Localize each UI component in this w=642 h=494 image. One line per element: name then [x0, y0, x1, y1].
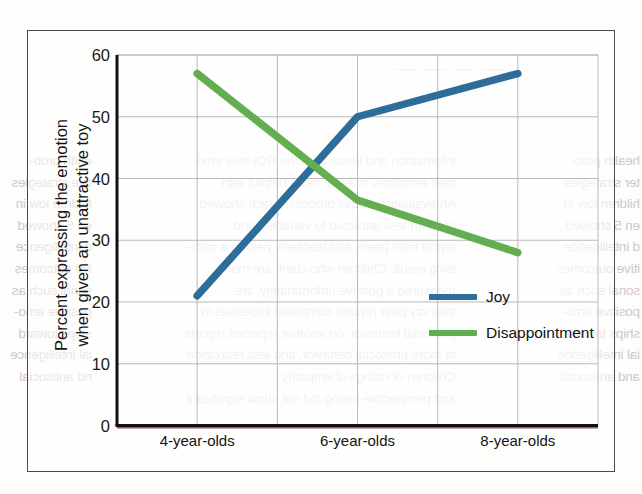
line-chart: Percent expressing the emotion when give…	[0, 0, 642, 494]
x-axis-tick-label: 6-year-olds	[320, 432, 395, 449]
legend-label-disappointment: Disappointment	[486, 324, 594, 342]
legend-item-joy[interactable]: Joy	[429, 288, 510, 306]
legend-item-disappointment[interactable]: Disappointment	[429, 324, 594, 342]
legend-label-joy: Joy	[486, 288, 510, 306]
legend-swatch-joy	[429, 294, 477, 300]
plot-area	[0, 0, 642, 494]
x-axis-tick-label: 8-year-olds	[480, 432, 555, 449]
x-axis-tick-label: 4-year-olds	[160, 432, 235, 449]
legend-swatch-disappointment	[429, 330, 477, 336]
